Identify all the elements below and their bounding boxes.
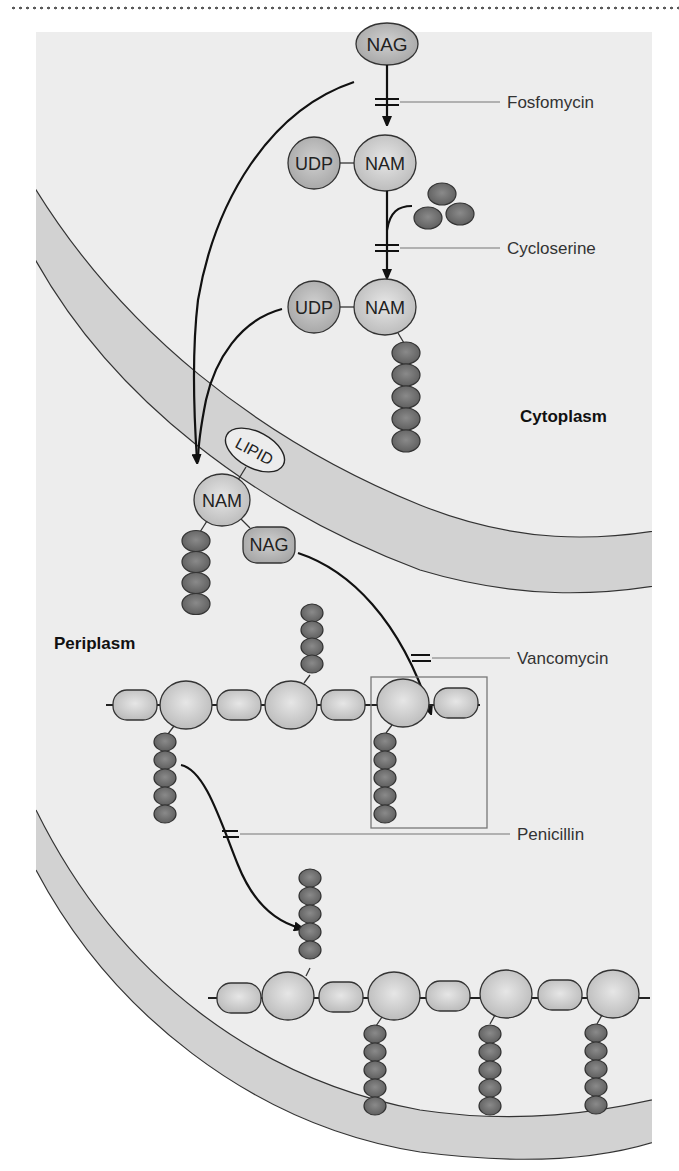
cycloserine-label: Cycloserine xyxy=(507,239,596,258)
vancomycin-label: Vancomycin xyxy=(517,649,608,668)
nag-molecule-top: NAG xyxy=(356,23,418,65)
cell-wall-synthesis-diagram: NAG Fosfomycin UDP NAM Cycloserine UDP N… xyxy=(0,0,679,1171)
svg-text:NAG: NAG xyxy=(249,535,288,555)
svg-text:NAM: NAM xyxy=(202,491,242,511)
cytoplasm-label: Cytoplasm xyxy=(520,407,607,426)
svg-text:NAM: NAM xyxy=(365,154,405,174)
svg-text:NAG: NAG xyxy=(366,34,407,55)
periplasm-label: Periplasm xyxy=(54,634,135,653)
svg-text:UDP: UDP xyxy=(295,154,333,174)
fosfomycin-label: Fosfomycin xyxy=(507,93,594,112)
svg-text:UDP: UDP xyxy=(295,298,333,318)
svg-text:NAM: NAM xyxy=(365,298,405,318)
penicillin-label: Penicillin xyxy=(517,825,584,844)
